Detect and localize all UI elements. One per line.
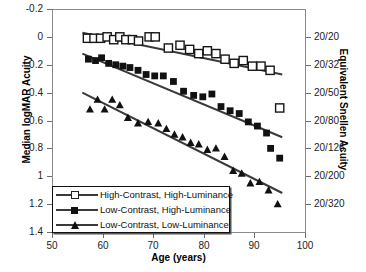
data-point-filled-triangle bbox=[154, 119, 162, 126]
legend-key-open-square-icon bbox=[56, 188, 98, 202]
legend-key-filled-square-icon bbox=[56, 203, 98, 217]
data-point-filled-square bbox=[267, 145, 274, 152]
legend-label: Low-Contrast, High-Luminance bbox=[98, 204, 231, 215]
data-point-open-square bbox=[239, 56, 247, 64]
data-point-filled-triangle bbox=[195, 140, 203, 147]
data-point-filled-triangle bbox=[246, 179, 254, 186]
data-point-filled-square bbox=[208, 91, 215, 98]
data-point-filled-triangle bbox=[170, 130, 178, 137]
data-point-filled-square bbox=[190, 92, 197, 99]
data-point-filled-square bbox=[263, 130, 270, 137]
data-point-open-square bbox=[276, 104, 284, 112]
data-point-filled-square bbox=[127, 64, 134, 71]
data-point-filled-triangle bbox=[187, 139, 195, 146]
data-point-open-square bbox=[212, 50, 220, 58]
data-point-open-square bbox=[134, 37, 142, 45]
data-point-filled-square bbox=[236, 110, 243, 117]
legend-item: High-Contrast, High-Luminance bbox=[53, 187, 229, 202]
data-point-filled-square bbox=[180, 88, 187, 95]
data-point-filled-square bbox=[245, 118, 252, 125]
data-point-filled-square bbox=[143, 71, 150, 78]
data-point-filled-square bbox=[170, 78, 177, 85]
data-point-filled-square bbox=[160, 73, 167, 80]
data-point-filled-triangle bbox=[179, 133, 187, 140]
data-point-filled-triangle bbox=[86, 105, 94, 112]
legend-item: Low-Contrast, High-Luminance bbox=[53, 202, 229, 217]
data-point-open-square bbox=[164, 44, 172, 52]
data-point-open-square bbox=[221, 55, 229, 63]
data-point-filled-triangle bbox=[162, 125, 170, 132]
data-point-filled-square bbox=[105, 60, 112, 67]
data-point-filled-square bbox=[112, 61, 119, 68]
data-point-open-square bbox=[203, 47, 211, 55]
data-point-filled-square bbox=[151, 73, 158, 80]
data-point-open-square bbox=[257, 62, 265, 70]
data-point-filled-triangle bbox=[212, 144, 220, 151]
data-point-filled-triangle bbox=[116, 101, 124, 108]
data-point-filled-triangle bbox=[255, 178, 263, 185]
data-point-open-square bbox=[195, 50, 203, 58]
data-point-open-square bbox=[266, 66, 274, 74]
data-point-filled-triangle bbox=[144, 118, 152, 125]
legend-item: Low-Contrast, Low-Luminance bbox=[53, 217, 229, 232]
data-point-filled-square bbox=[276, 155, 283, 162]
data-point-open-square bbox=[186, 45, 194, 53]
regression-line bbox=[82, 93, 282, 193]
chart-legend: High-Contrast, High-Luminance Low-Contra… bbox=[52, 186, 230, 233]
chart-figure: Median logMAR Acuity Equivalent Snellen … bbox=[0, 0, 366, 272]
data-point-filled-triangle bbox=[221, 153, 229, 160]
data-point-open-square bbox=[248, 62, 256, 70]
legend-label: Low-Contrast, Low-Luminance bbox=[98, 219, 229, 230]
data-point-filled-square bbox=[98, 54, 105, 61]
data-point-filled-square bbox=[119, 63, 126, 70]
data-point-filled-square bbox=[92, 57, 99, 64]
data-point-filled-square bbox=[218, 103, 225, 110]
data-point-filled-square bbox=[254, 123, 261, 130]
data-point-open-square bbox=[230, 59, 238, 67]
data-point-filled-square bbox=[135, 67, 142, 74]
data-point-open-square bbox=[176, 41, 184, 49]
legend-label: High-Contrast, High-Luminance bbox=[98, 189, 233, 200]
legend-key-filled-triangle-icon bbox=[56, 218, 98, 232]
data-point-filled-triangle bbox=[203, 146, 211, 153]
data-point-filled-square bbox=[199, 93, 206, 100]
data-point-filled-square bbox=[227, 107, 234, 114]
data-point-filled-square bbox=[85, 56, 92, 63]
data-point-filled-triangle bbox=[274, 200, 282, 207]
data-point-open-square bbox=[151, 33, 159, 41]
data-point-filled-triangle bbox=[108, 95, 116, 102]
